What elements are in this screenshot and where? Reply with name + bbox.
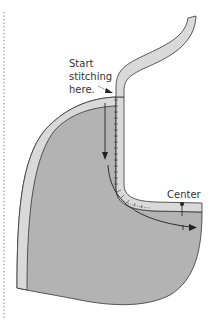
start-stitching-label: Start stitching here. <box>69 57 119 96</box>
start-label-line1: Start <box>69 57 119 70</box>
neck-strip <box>116 16 196 97</box>
start-label-line3: here. <box>69 83 119 96</box>
center-pin-marker-icon <box>180 202 184 206</box>
start-label-line2: stitching <box>69 70 119 83</box>
sewing-diagram <box>0 0 215 323</box>
center-label: Center <box>167 188 201 201</box>
